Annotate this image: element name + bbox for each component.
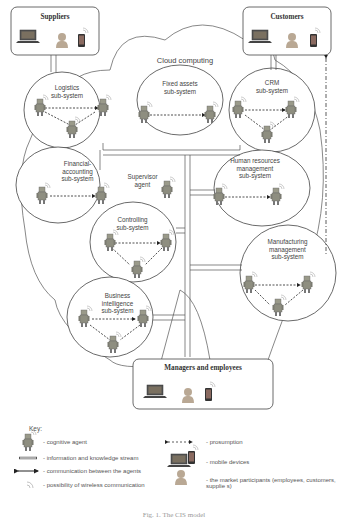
key-mobile-devices: - mobile devices xyxy=(206,459,249,465)
suppliers-title: Suppliers xyxy=(11,13,99,21)
key-information-stream: - information and knowledge stream xyxy=(43,455,138,461)
figure-caption: Fig. 1. The CIS model xyxy=(104,511,244,519)
crm-label: CRMsub-system xyxy=(247,79,297,94)
bi-label: Businessintelligencesub-system xyxy=(95,292,140,315)
key-cognitive-agent: - cognitive agent xyxy=(43,439,87,445)
key-wireless: - possibility of wireless communication xyxy=(43,482,145,488)
customers-title: Customers xyxy=(243,13,331,21)
manufacturing-label: Manufacturingmanagementsub-system xyxy=(260,238,315,261)
supervisor-agent-label: Supervisoragent xyxy=(120,173,165,188)
hr-label: Human resourcesmanagementsub-system xyxy=(225,157,285,180)
managers-title: Managers and employees xyxy=(133,364,273,372)
controlling-label: Controllingsub-system xyxy=(110,216,155,231)
key-prosumption: - prosumption xyxy=(206,439,243,445)
key-market-participants: - the market participants (employees, cu… xyxy=(206,477,336,489)
key-title: Key: xyxy=(29,425,42,432)
logistics-label: Logisticssub-system xyxy=(42,84,92,99)
cloud-label: Cloud computing xyxy=(145,57,225,65)
fixed-assets-label: Fixed assetssub-system xyxy=(155,80,205,95)
key-communication: - communication between the agents xyxy=(43,468,141,474)
financial-label: Financial-accountingsub-system xyxy=(55,160,100,183)
